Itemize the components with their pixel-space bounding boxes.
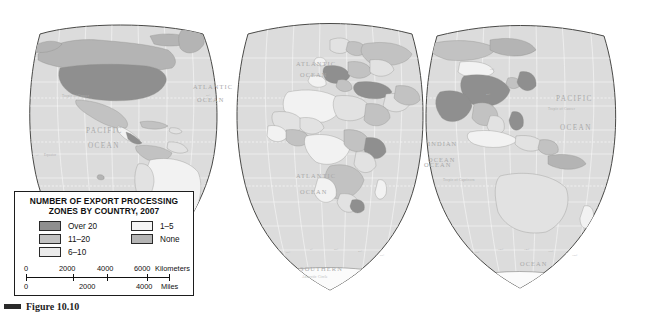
scale-mi-tick-0: 0 bbox=[24, 282, 28, 291]
legend-item-6-10: 6–10 bbox=[39, 247, 131, 257]
figure-caption: Figure 10.10 bbox=[4, 301, 79, 312]
scale-mi-tick-2000: 2000 bbox=[79, 282, 95, 291]
svg-text:OCEAN: OCEAN bbox=[424, 161, 452, 168]
svg-text:60°: 60° bbox=[380, 253, 385, 257]
legend-item-over-20: Over 20 bbox=[39, 221, 131, 231]
map-legend: NUMBER OF EXPORT PROCESSING ZONES BY COU… bbox=[14, 191, 194, 296]
legend-label-over-20: Over 20 bbox=[68, 222, 97, 231]
scale-tick-c bbox=[107, 274, 108, 281]
scale-km-tick-4000: 4000 bbox=[97, 264, 113, 273]
svg-text:OCEAN: OCEAN bbox=[300, 188, 328, 195]
legend-column-left: Over 20 11–20 6–10 bbox=[39, 221, 131, 257]
svg-text:ATLANTIC: ATLANTIC bbox=[296, 172, 336, 179]
svg-text:Tropic of Cancer: Tropic of Cancer bbox=[548, 107, 576, 111]
scale-rule bbox=[24, 274, 186, 281]
scale-tick-b bbox=[73, 274, 74, 281]
scale-tick-a bbox=[26, 274, 27, 281]
svg-text:PACIFIC: PACIFIC bbox=[86, 127, 123, 135]
legend-item-11-20: 11–20 bbox=[39, 234, 131, 244]
legend-swatch-none bbox=[131, 234, 153, 244]
svg-text:OCEAN: OCEAN bbox=[520, 260, 548, 267]
legend-swatch-over-20 bbox=[39, 221, 61, 231]
scale-tick-e bbox=[169, 274, 170, 281]
caption-text: Figure 10.10 bbox=[26, 301, 79, 312]
scale-km-tick-2000: 2000 bbox=[59, 264, 75, 273]
svg-text:ATLANTIC: ATLANTIC bbox=[296, 60, 336, 67]
legend-swatch-grid: Over 20 11–20 6–10 1–5 None bbox=[22, 221, 186, 257]
scale-tick-d bbox=[147, 274, 148, 281]
svg-text:OCEAN: OCEAN bbox=[88, 142, 120, 150]
legend-label-none: None bbox=[160, 235, 180, 244]
legend-title-line-2: ZONES BY COUNTRY, 2007 bbox=[22, 207, 186, 217]
svg-text:OCEAN: OCEAN bbox=[197, 96, 225, 103]
legend-label-6-10: 6–10 bbox=[68, 248, 86, 257]
legend-item-none: None bbox=[131, 234, 180, 244]
svg-text:160°: 160° bbox=[548, 249, 554, 253]
svg-text:SOUTHERN: SOUTHERN bbox=[300, 265, 343, 272]
legend-label-11-20: 11–20 bbox=[68, 235, 90, 244]
caption-marker-bar bbox=[4, 304, 21, 309]
svg-text:Equator: Equator bbox=[44, 153, 57, 157]
scale-km-labels: 0 2000 4000 6000 Kilometers bbox=[24, 264, 186, 273]
scale-km-tick-0: 0 bbox=[24, 264, 28, 273]
scale-mi-tick-4000: 4000 bbox=[136, 282, 152, 291]
legend-swatch-11-20 bbox=[39, 234, 61, 244]
legend-swatch-6-10 bbox=[39, 247, 61, 257]
svg-text:180°: 180° bbox=[572, 253, 578, 257]
svg-text:OCEAN: OCEAN bbox=[560, 124, 592, 132]
legend-label-1-5: 1–5 bbox=[160, 222, 174, 231]
scale-mi-labels: 0 2000 4000 Miles bbox=[24, 282, 186, 291]
svg-text:OCEAN: OCEAN bbox=[300, 71, 328, 78]
svg-text:Antarctic Circle: Antarctic Circle bbox=[302, 275, 328, 279]
svg-text:Tropic of Cancer: Tropic of Cancer bbox=[62, 94, 90, 98]
svg-text:120°: 120° bbox=[498, 247, 504, 251]
svg-text:PACIFIC: PACIFIC bbox=[556, 95, 593, 103]
legend-column-right: 1–5 None bbox=[131, 221, 180, 257]
legend-title: NUMBER OF EXPORT PROCESSING ZONES BY COU… bbox=[22, 197, 186, 216]
legend-swatch-1-5 bbox=[131, 221, 153, 231]
map-scale-bar: 0 2000 4000 6000 Kilometers 0 2000 4000 … bbox=[22, 264, 186, 295]
scale-km-unit: Kilometers bbox=[155, 264, 190, 273]
svg-text:100°: 100° bbox=[474, 250, 480, 254]
svg-text:INDIAN: INDIAN bbox=[428, 140, 457, 147]
svg-text:140°: 140° bbox=[524, 247, 530, 251]
scale-mi-unit: Miles bbox=[161, 282, 178, 291]
scale-km-tick-6000: 6000 bbox=[134, 264, 150, 273]
svg-text:Tropic of Capricorn: Tropic of Capricorn bbox=[443, 178, 475, 182]
legend-item-1-5: 1–5 bbox=[131, 221, 180, 231]
svg-text:ATLANTIC: ATLANTIC bbox=[193, 83, 233, 90]
